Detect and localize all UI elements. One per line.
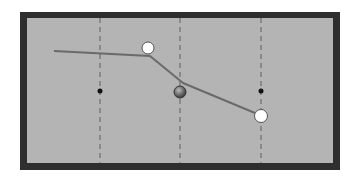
marker-dot-2	[259, 89, 264, 94]
gray-ball-center	[174, 86, 186, 98]
marker-dot-1	[98, 89, 103, 94]
billiards-diagram	[0, 0, 357, 185]
white-ball-top	[142, 42, 154, 54]
white-ball-bottom	[255, 110, 268, 123]
